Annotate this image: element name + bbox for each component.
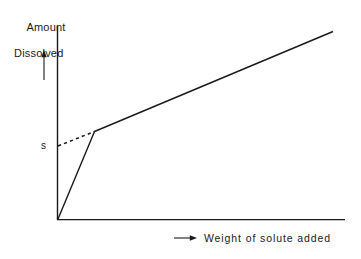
y-axis-label: Amount Dissolved bbox=[14, 8, 66, 86]
dissolution-after-saturation-line bbox=[95, 32, 334, 132]
x-axis-label: Weight of solute added bbox=[204, 232, 331, 244]
y-axis-label-line1: Amount bbox=[26, 21, 65, 33]
solubility-figure: Amount Dissolved s Weight of solute adde… bbox=[0, 0, 361, 259]
dissolution-before-saturation-line bbox=[58, 132, 95, 220]
arrow-right-icon bbox=[174, 235, 197, 240]
saturation-level-label: s bbox=[41, 140, 46, 152]
y-axis-label-line2: Dissolved bbox=[14, 47, 66, 60]
